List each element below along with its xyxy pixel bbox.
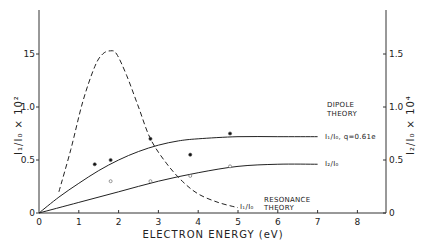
x-tick-label: 6	[275, 217, 281, 227]
x-tick-label: 2	[116, 217, 122, 227]
series1-label: I₁/I₀, q=0.61e	[325, 133, 376, 141]
data-point	[229, 165, 232, 168]
y-tick-label-right: 0.5	[389, 155, 403, 165]
data-point	[149, 137, 152, 140]
x-tick-label: 3	[156, 217, 162, 227]
y-tick-label-right: 0	[389, 208, 395, 218]
dipole-label-2: THEORY	[326, 110, 357, 118]
y-axis-label-left: I₁/I₀ × 10²	[13, 95, 24, 155]
data-point	[109, 180, 112, 183]
y-tick-label-left: 0	[29, 208, 35, 218]
resonance-label-1: RESONANCE	[264, 196, 311, 204]
curves	[39, 51, 318, 213]
y-axis-label-right: I₂/I₀ × 10⁴	[405, 95, 416, 155]
x-tick-label: 4	[195, 217, 201, 227]
data-point	[189, 174, 192, 177]
x-tick-label: 7	[315, 217, 321, 227]
y-tick-label-left: 0.5	[21, 155, 35, 165]
x-tick-label: 5	[235, 217, 241, 227]
x-tick-label: 8	[355, 217, 361, 227]
y-tick-label-right: 1.5	[389, 49, 403, 59]
data-point	[93, 163, 96, 166]
y-tick-label-left: 15	[24, 49, 35, 59]
x-tick-label: 1	[76, 217, 82, 227]
series2-label: I₂/I₀	[325, 160, 339, 168]
x-axis-label: ELECTRON ENERGY (eV)	[142, 229, 283, 240]
x-tick-label: 0	[36, 217, 42, 227]
chart: 012345678000.50.51.01.0151.5 ELECTRON EN…	[0, 0, 429, 247]
data-point	[228, 132, 231, 135]
resonance-series-label: I₁/I₀	[240, 203, 254, 211]
data-point	[109, 158, 112, 161]
data-point	[149, 180, 152, 183]
dipole-label-1: DIPOLE	[327, 101, 354, 109]
data-point	[189, 153, 192, 156]
y-tick-label-right: 1.0	[389, 102, 404, 112]
resonance-label-2: THEORY	[263, 204, 294, 212]
